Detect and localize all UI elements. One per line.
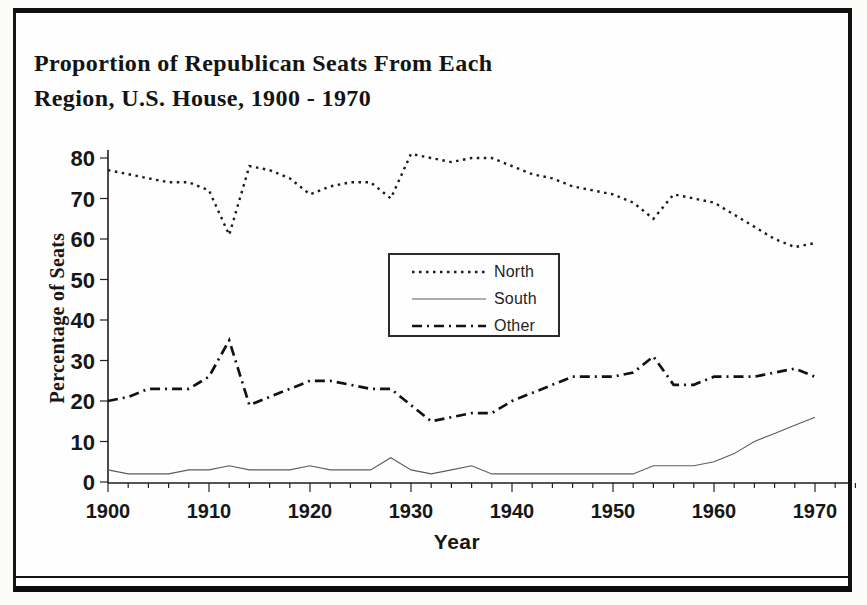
legend-line-sample-south-icon bbox=[410, 290, 488, 308]
legend-line-sample-other-icon bbox=[410, 317, 488, 335]
legend-item-other: Other bbox=[390, 317, 558, 335]
x-tick-label: 1900 bbox=[86, 500, 131, 522]
x-tick-label: 1960 bbox=[692, 500, 737, 522]
legend-item-south: South bbox=[390, 290, 558, 308]
legend-label-south: South bbox=[494, 290, 537, 308]
legend-item-north: North bbox=[390, 263, 558, 281]
y-tick-label: 40 bbox=[71, 308, 95, 333]
legend-label-north: North bbox=[494, 263, 534, 281]
legend-box: North South Other bbox=[388, 253, 560, 337]
legend-label-other: Other bbox=[494, 317, 535, 335]
y-tick-label: 60 bbox=[71, 227, 95, 252]
y-tick-label: 0 bbox=[83, 470, 95, 495]
y-tick-label: 30 bbox=[71, 349, 95, 374]
legend-line-sample-north-icon bbox=[410, 263, 488, 281]
y-tick-label: 10 bbox=[71, 430, 95, 455]
series-line-south bbox=[108, 417, 815, 474]
series-line-north bbox=[108, 154, 815, 247]
y-tick-label: 80 bbox=[71, 146, 95, 171]
x-tick-label: 1910 bbox=[187, 500, 232, 522]
x-tick-label: 1920 bbox=[288, 500, 333, 522]
x-tick-label: 1970 bbox=[793, 500, 838, 522]
x-tick-label: 1940 bbox=[490, 500, 535, 522]
x-axis-title: Year bbox=[434, 530, 480, 554]
series-line-other bbox=[108, 340, 815, 421]
y-tick-label: 50 bbox=[71, 268, 95, 293]
y-tick-label: 70 bbox=[71, 187, 95, 212]
x-tick-label: 1930 bbox=[389, 500, 434, 522]
y-tick-label: 20 bbox=[71, 389, 95, 414]
x-tick-label: 1950 bbox=[591, 500, 636, 522]
